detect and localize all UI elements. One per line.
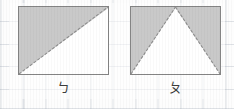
- panel-bo-label: ㄅ: [18, 80, 109, 95]
- panel-bo-square: [18, 6, 109, 75]
- panel-po: ㄆ: [130, 6, 221, 95]
- panel-po-label: ㄆ: [130, 80, 221, 95]
- panel-po-triangle-lines: [130, 6, 221, 75]
- panel-bo-diagonal-line: [18, 6, 109, 75]
- worksheet-figure-page: ㄅ ㄆ: [0, 0, 234, 109]
- panel-po-square: [130, 6, 221, 75]
- panel-bo: ㄅ: [18, 6, 109, 95]
